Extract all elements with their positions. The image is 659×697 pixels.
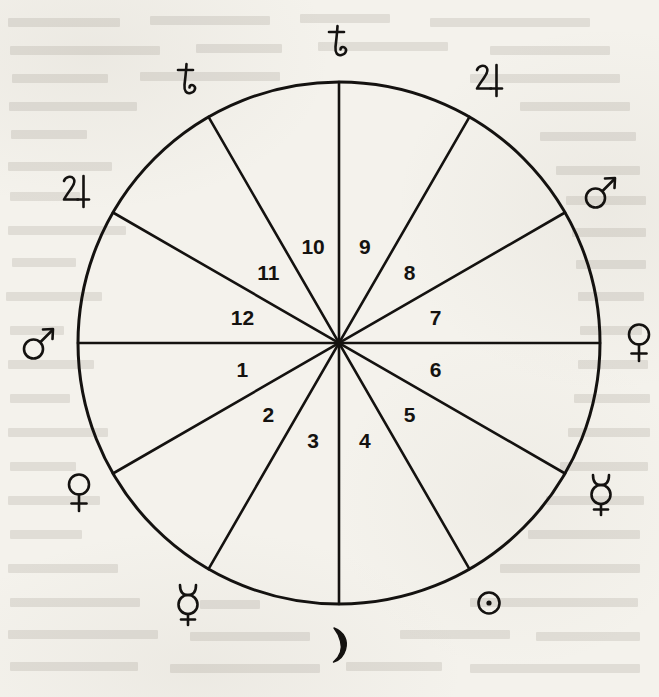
house-number-8: 8 (404, 262, 416, 283)
house-number-2: 2 (262, 403, 274, 424)
jupiter-icon (58, 172, 96, 212)
astrological-chart-diagram: 123456789101112 (0, 0, 659, 697)
house-number-6: 6 (430, 358, 442, 379)
sun-icon (474, 588, 504, 618)
mars-icon (581, 172, 621, 212)
house-number-1: 1 (237, 358, 249, 379)
mercury-icon (585, 471, 617, 519)
house-number-11: 11 (257, 262, 279, 283)
house-number-9: 9 (359, 236, 371, 257)
venus-icon (623, 321, 655, 365)
saturn-icon (171, 61, 205, 101)
saturn-icon (322, 23, 356, 63)
house-cusp-spokes (78, 82, 600, 604)
house-number-10: 10 (301, 236, 324, 257)
moon-icon (325, 625, 353, 665)
house-number-5: 5 (404, 403, 416, 424)
house-number-7: 7 (430, 307, 442, 328)
mercury-icon (172, 581, 204, 629)
chart-wheel-svg (0, 0, 659, 697)
venus-icon (63, 471, 95, 515)
house-number-3: 3 (307, 429, 319, 450)
jupiter-icon (471, 61, 509, 101)
house-number-12: 12 (231, 307, 254, 328)
house-number-4: 4 (359, 429, 371, 450)
mars-icon (19, 323, 59, 363)
